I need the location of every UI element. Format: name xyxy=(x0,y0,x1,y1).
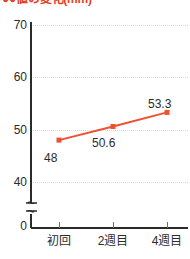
y-tick-label-60: 60 xyxy=(1,71,27,83)
title-text: 値の変化(mm) xyxy=(16,0,92,6)
gridline-40 xyxy=(31,182,188,183)
line-chart: ●●値の変化(mm) 70 60 50 40 0 初回 2週目 4週目 4 xyxy=(0,0,190,259)
x-axis-line xyxy=(31,227,188,229)
y-tick-label-50: 50 xyxy=(1,124,27,136)
y-axis-line xyxy=(30,22,32,203)
x-tick-1 xyxy=(59,222,60,228)
gridline-70 xyxy=(31,25,188,26)
y-axis-line-lower xyxy=(30,214,32,228)
x-tick-3 xyxy=(167,222,168,228)
data-label-1: 48 xyxy=(44,152,57,165)
x-tick-label-2: 2週目 xyxy=(86,234,140,248)
x-tick-2 xyxy=(113,222,114,228)
x-tick-label-3: 4週目 xyxy=(140,234,190,248)
gridline-50 xyxy=(31,130,188,131)
data-label-2: 50.6 xyxy=(92,137,115,150)
data-label-3: 53.3 xyxy=(148,98,171,111)
y-axis-labels: 70 60 50 40 0 xyxy=(0,0,27,259)
y-tick-label-40: 40 xyxy=(1,176,27,188)
y-tick-label-0: 0 xyxy=(1,220,27,232)
x-tick-label-1: 初回 xyxy=(32,234,86,248)
gridline-60 xyxy=(31,77,188,78)
plot-area xyxy=(31,22,188,228)
chart-title: ●●値の変化(mm) xyxy=(2,0,188,7)
y-tick-label-70: 70 xyxy=(1,19,27,31)
